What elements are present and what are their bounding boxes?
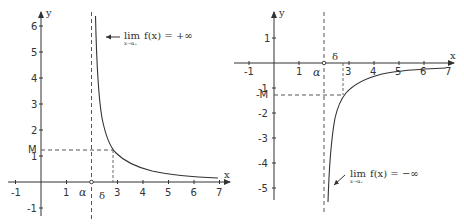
lim-subscript: x→α₊	[124, 40, 137, 46]
x-tick-label: -1	[11, 187, 21, 198]
y-tick-label: -2	[258, 108, 268, 119]
limits-diagram: -1 1 3 4 5 6 7 6 5 4 3 2 1 -1 y x α δ M …	[0, 0, 464, 224]
m-label: -M	[256, 89, 268, 100]
alpha-label: α	[79, 186, 87, 199]
limit-expression: f(x) = −∞	[370, 168, 419, 179]
y-tick-label: 2	[31, 125, 37, 136]
y-tick-label: 1	[264, 33, 270, 44]
limit-annotation: lim x→α₊ f(x) = +∞	[106, 30, 193, 46]
x-tick-label: -1	[244, 66, 254, 77]
lim-subscript: x→α₊	[350, 178, 363, 184]
y-tick-label: -4	[258, 158, 268, 169]
curve-negative-infinity	[328, 68, 446, 202]
x-tick-label: 3	[114, 187, 120, 198]
x-tick-label: 3	[345, 66, 351, 77]
x-axis-label: x	[450, 50, 456, 61]
x-tick-label: 7	[216, 187, 222, 198]
limit-expression: f(x) = +∞	[144, 30, 193, 41]
alpha-point	[90, 180, 94, 184]
x-tick-label: 5	[165, 187, 171, 198]
x-tick-label: 1	[63, 187, 69, 198]
annotation-arrow	[334, 175, 345, 185]
left-graph: -1 1 3 4 5 6 7 6 5 4 3 2 1 -1 y x α δ M …	[8, 7, 230, 220]
alpha-point	[322, 61, 326, 65]
m-label: M	[28, 144, 37, 155]
y-tick-label: -1	[27, 203, 37, 214]
x-tick-label: 4	[140, 187, 146, 198]
y-tick-label: 4	[31, 73, 37, 84]
y-tick-label: -5	[258, 183, 268, 194]
delta-label: δ	[99, 190, 105, 201]
right-graph: -1 1 3 4 5 6 7 1 -1 -2 -3 -4 -5 y x α δ …	[234, 7, 456, 215]
x-axis-label: x	[224, 169, 230, 180]
y-axis-label: y	[45, 7, 52, 18]
alpha-label: α	[313, 66, 321, 79]
x-tick-label: 1	[296, 66, 302, 77]
y-tick-label: 6	[31, 21, 37, 32]
y-tick-label: 5	[31, 47, 37, 58]
limit-annotation: lim x→α₊ f(x) = −∞	[334, 168, 419, 185]
y-tick-label: -3	[258, 133, 268, 144]
y-tick-label: 3	[31, 99, 37, 110]
delta-label: δ	[332, 51, 338, 62]
x-tick-label: 6	[191, 187, 197, 198]
x-tick-label: 6	[420, 66, 426, 77]
y-axis-label: y	[278, 7, 285, 18]
